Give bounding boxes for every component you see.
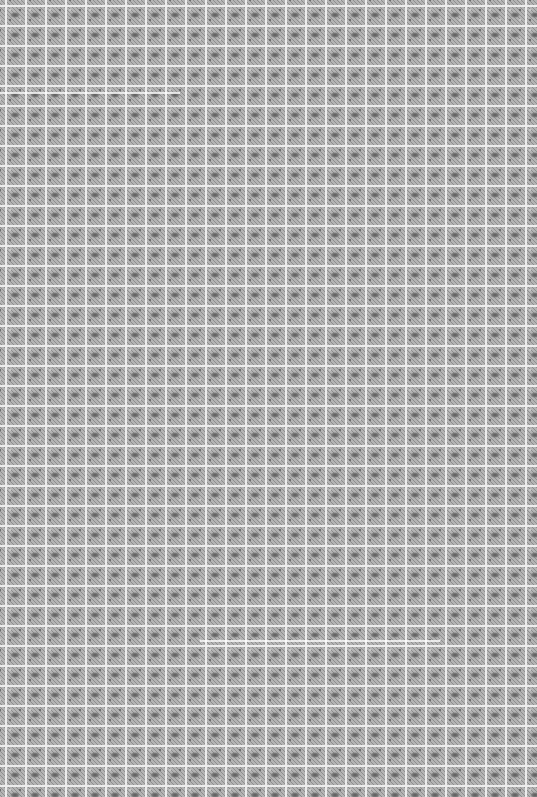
- highlight-streak: [200, 640, 440, 642]
- highlight-streak: [0, 92, 180, 94]
- tile-texture: [0, 0, 537, 797]
